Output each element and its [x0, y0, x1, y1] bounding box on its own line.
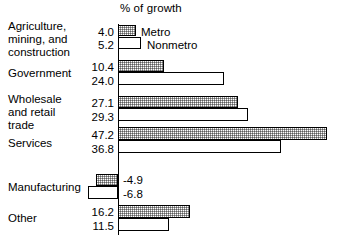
category-label-manufacturing: Manufacturing — [8, 181, 81, 194]
category-label-wholesale: Wholesale and retail trade — [8, 93, 62, 133]
bar-nonmetro-services — [118, 140, 281, 153]
value-label-nonmetro-services: 36.8 — [74, 143, 114, 155]
value-label-nonmetro-government: 24.0 — [74, 75, 114, 87]
value-label-nonmetro-agriculture: 5.2 — [74, 39, 114, 51]
legend-label-metro: Metro — [141, 26, 170, 38]
legend-label-nonmetro: Nonmetro — [147, 39, 198, 51]
category-label-line: Manufacturing — [8, 181, 81, 194]
value-label-metro-services: 47.2 — [74, 129, 114, 141]
value-label-nonmetro-other: 11.5 — [74, 220, 114, 232]
category-label-other: Other — [8, 212, 37, 225]
category-label-line: Agriculture, — [8, 20, 70, 33]
category-label-line: Government — [8, 67, 71, 80]
bar-chart: % of growth Agriculture, mining, and con… — [0, 0, 337, 242]
bar-nonmetro-manufacturing — [88, 186, 118, 199]
bar-nonmetro-agriculture — [118, 37, 141, 49]
bar-metro-wholesale — [118, 96, 238, 108]
category-label-government: Government — [8, 67, 71, 80]
category-label-line: Other — [8, 212, 37, 225]
category-label-line: and retail — [8, 106, 62, 119]
category-label-agriculture: Agriculture, mining, and construction — [8, 20, 70, 60]
value-label-metro-manufacturing: -4.9 — [123, 174, 169, 186]
category-label-line: Services — [8, 137, 52, 150]
value-label-metro-agriculture: 4.0 — [74, 26, 114, 38]
value-label-metro-wholesale: 27.1 — [74, 97, 114, 109]
bar-metro-manufacturing — [96, 174, 118, 186]
bar-metro-services — [118, 127, 327, 140]
category-label-services: Services — [8, 137, 52, 150]
chart-title: % of growth — [120, 2, 182, 14]
category-label-line: Wholesale — [8, 93, 62, 106]
bar-nonmetro-government — [118, 72, 224, 85]
bar-metro-government — [118, 60, 164, 72]
category-label-line: construction — [8, 46, 70, 59]
category-label-line: trade — [8, 119, 62, 132]
bar-metro-agriculture — [118, 25, 136, 36]
bar-metro-other — [118, 205, 190, 218]
bar-nonmetro-other — [118, 218, 169, 231]
value-label-metro-government: 10.4 — [74, 61, 114, 73]
bar-nonmetro-wholesale — [118, 108, 248, 121]
value-label-nonmetro-manufacturing: -6.8 — [123, 188, 169, 200]
value-label-metro-other: 16.2 — [74, 206, 114, 218]
value-label-nonmetro-wholesale: 29.3 — [74, 111, 114, 123]
category-label-line: mining, and — [8, 33, 70, 46]
